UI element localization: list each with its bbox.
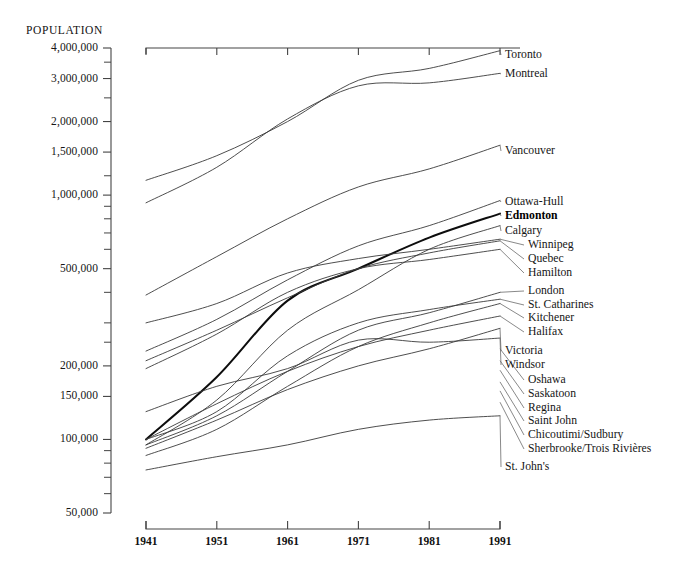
series-group: [146, 51, 500, 470]
y-tick-3000000: 3,000,000: [0, 72, 98, 84]
series-label-ottawa-hull: Ottawa-Hull: [505, 196, 563, 208]
series-label-saskatoon: Saskatoon: [528, 388, 576, 400]
y-tick-50000: 50,000: [0, 506, 98, 518]
y-tick-100000: 100,000: [0, 432, 98, 444]
series-label-kitchener: Kitchener: [528, 312, 574, 324]
series-label-windsor: Windsor: [505, 359, 545, 371]
series-label-regina: Regina: [528, 402, 561, 414]
series-label-winnipeg: Winnipeg: [528, 239, 574, 251]
y-tick-1000000: 1,000,000: [0, 188, 98, 200]
y-tick-1500000: 1,500,000: [0, 145, 98, 157]
series-label-edmonton: Edmonton: [505, 210, 558, 222]
leader-st-catharines: [500, 299, 524, 305]
y-tick-500000: 500,000: [0, 262, 98, 274]
series-label-halifax: Halifax: [528, 326, 563, 338]
series-label-quebec: Quebec: [528, 253, 564, 265]
leader-montreal: [500, 73, 501, 74]
series-label-victoria: Victoria: [505, 345, 543, 357]
x-tick-1971: 1971: [334, 535, 382, 547]
series-label-hamilton: Hamilton: [528, 267, 572, 279]
leader-saint-john: [500, 382, 524, 421]
series-line-ottawa-hull: [146, 201, 500, 352]
leader-hamilton: [500, 249, 524, 273]
series-line-victoria: [146, 328, 500, 448]
series-label-toronto: Toronto: [505, 49, 542, 61]
series-label-chicoutimi-sudbury: Chicoutimi/Sudbury: [528, 429, 623, 441]
leader-calgary: [500, 226, 501, 231]
series-line-halifax: [146, 316, 500, 439]
axes-group: [103, 48, 520, 529]
series-label-montreal: Montreal: [505, 68, 548, 80]
leader-london: [500, 291, 524, 292]
series-label-sherbrooke-trois-rivi-res: Sherbrooke/Trois Rivières: [528, 443, 651, 455]
series-label-calgary: Calgary: [505, 225, 542, 237]
x-tick-1961: 1961: [264, 535, 312, 547]
x-tick-1951: 1951: [193, 535, 241, 547]
plot-canvas: [0, 0, 681, 569]
series-label-london: London: [528, 285, 564, 297]
leader-sherbrooke-trois-rivi-res: [500, 402, 524, 449]
x-tick-1941: 1941: [122, 535, 170, 547]
y-tick-2000000: 2,000,000: [0, 115, 98, 127]
y-tick-200000: 200,000: [0, 359, 98, 371]
series-label-st-catharines: St. Catharines: [528, 299, 594, 311]
x-tick-1991: 1991: [476, 535, 524, 547]
y-tick-150000: 150,000: [0, 389, 98, 401]
leader-st-john-s: [500, 416, 501, 467]
series-label-oshawa: Oshawa: [528, 374, 566, 386]
leader-quebec: [500, 241, 524, 259]
leader-vancouver: [500, 145, 501, 151]
series-line-montreal: [146, 73, 500, 202]
leader-kitchener: [500, 304, 524, 319]
population-line-chart: POPULATION 4,000,0003,000,0002,000,0001,…: [0, 0, 681, 569]
leader-winnipeg: [500, 239, 524, 245]
series-line-toronto: [146, 51, 500, 181]
y-tick-4000000: 4,000,000: [0, 41, 98, 53]
leader-ottawa-hull: [500, 201, 501, 202]
series-line-london: [146, 292, 500, 445]
leader-lines-group: [500, 51, 524, 467]
series-label-st-john-s: St. John's: [505, 461, 549, 473]
series-label-vancouver: Vancouver: [505, 145, 555, 157]
leader-halifax: [500, 316, 524, 332]
leader-chicoutimi-sudbury: [500, 391, 524, 435]
series-label-saint-john: Saint John: [528, 415, 577, 427]
x-tick-1981: 1981: [405, 535, 453, 547]
